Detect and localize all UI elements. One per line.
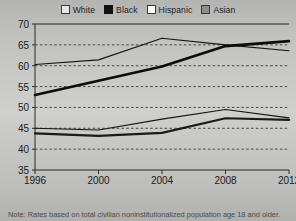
line-chart-svg: [0, 17, 296, 193]
y-axis-label: 60: [2, 60, 29, 71]
series-line-asian: [35, 118, 289, 136]
y-axis-label: 45: [2, 123, 29, 134]
chart-legend: White Black Hispanic Asian: [0, 2, 296, 17]
legend-item-hispanic: Hispanic: [147, 5, 193, 15]
y-axis-label: 55: [2, 81, 29, 92]
legend-swatch-black-icon: [104, 5, 113, 14]
x-axis-label: 1996: [24, 175, 46, 186]
x-axis-label: 2004: [151, 175, 173, 186]
plot-area: 3540455055606570 19962000200420082012: [0, 17, 296, 193]
legend-item-white: White: [61, 5, 95, 15]
legend-label-asian: Asian: [213, 5, 235, 15]
ticks: [32, 24, 289, 174]
legend-label-hispanic: Hispanic: [159, 5, 193, 15]
legend-swatch-white-icon: [61, 5, 70, 14]
legend-label-black: Black: [116, 5, 138, 15]
legend-item-asian: Asian: [201, 5, 235, 15]
chart-screenshot: White Black Hispanic Asian 3540455055606…: [0, 0, 296, 221]
legend-swatch-asian-icon: [201, 5, 210, 14]
y-axis-label: 40: [2, 144, 29, 155]
y-axis-label: 35: [2, 165, 29, 176]
y-axis-label: 65: [2, 39, 29, 50]
x-axis-label: 2012: [278, 175, 296, 186]
series-lines: [35, 38, 289, 136]
chart-note: Note: Rates based on total civilian noni…: [8, 211, 294, 221]
series-line-white: [35, 38, 289, 64]
axes: [35, 24, 289, 170]
y-axis-label: 50: [2, 102, 29, 113]
x-axis-label: 2000: [87, 175, 109, 186]
legend-item-black: Black: [104, 5, 138, 15]
x-axis-label: 2008: [214, 175, 236, 186]
legend-swatch-hispanic-icon: [147, 5, 156, 14]
y-axis-label: 70: [2, 19, 29, 30]
legend-label-white: White: [73, 5, 95, 15]
